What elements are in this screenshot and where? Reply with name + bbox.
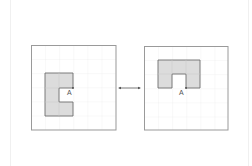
- point-a-label-before: A: [67, 89, 72, 96]
- double-arrow-icon: [118, 87, 141, 89]
- panel-after: A: [144, 46, 228, 130]
- panel-before: A: [31, 45, 116, 130]
- point-a-after: [185, 87, 187, 89]
- point-a-label-after: A: [179, 89, 184, 96]
- point-a-before: [72, 87, 74, 89]
- rotation-diagram: A A: [0, 0, 252, 166]
